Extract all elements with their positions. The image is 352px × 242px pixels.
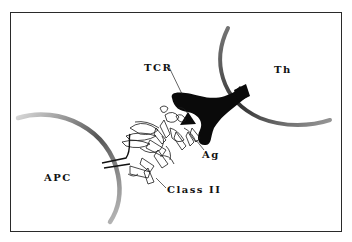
label-apc: APC [44,172,72,183]
label-th: Th [274,64,292,75]
diagram-artwork [0,0,352,242]
label-class-ii: Class II [167,184,221,195]
label-ag: Ag [202,149,220,160]
th-membrane [220,28,330,125]
leader-lines [156,65,204,188]
label-tcr: TCR [144,62,172,73]
